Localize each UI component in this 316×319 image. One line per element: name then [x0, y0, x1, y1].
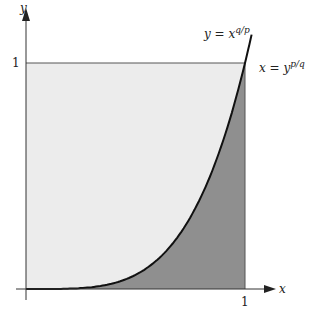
integral-area-diagram: x y 1 1 y = xq/p x = yp/q	[0, 0, 316, 319]
y-tick-1: 1	[12, 56, 20, 70]
x-tick-1: 1	[241, 295, 249, 309]
curve-label-top: y = xq/p	[203, 25, 250, 41]
y-axis-label: y	[19, 1, 27, 15]
svg-text:y = xq/p: y = xq/p	[203, 25, 250, 41]
svg-text:x = yp/q: x = yp/q	[259, 59, 305, 75]
diagram-canvas: x y 1 1 y = xq/p x = yp/q	[0, 0, 316, 319]
curve-label-right: x = yp/q	[259, 59, 305, 75]
x-axis-label: x	[279, 282, 286, 296]
x-axis-arrow-icon	[264, 285, 276, 293]
